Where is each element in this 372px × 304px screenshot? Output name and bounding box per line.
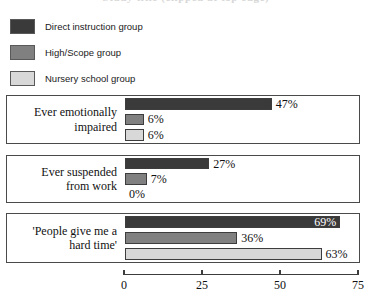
panel-category-label-line: hard time' bbox=[69, 238, 117, 252]
x-axis-tick bbox=[357, 270, 358, 275]
x-axis-tick bbox=[201, 270, 202, 275]
bar-value-label: 63% bbox=[326, 246, 348, 261]
bar-value-label: 6% bbox=[148, 128, 164, 143]
chart-panel: Ever emotionallyimpaired47%6%6% bbox=[6, 95, 360, 144]
panel-bars: 47%6%6% bbox=[125, 96, 359, 143]
panel-category-label-line: impaired bbox=[74, 120, 117, 134]
panel-category-label-line: Ever suspended bbox=[41, 165, 117, 179]
bar-value-label: 69% bbox=[314, 214, 336, 229]
panel-category-label-line: 'People give me a bbox=[33, 224, 117, 238]
panel-bars: 27%7%0% bbox=[125, 156, 359, 202]
x-axis-tick-label: 25 bbox=[196, 278, 208, 293]
panel-bars: 69%36%63% bbox=[125, 214, 359, 262]
bar-row: 69% bbox=[125, 214, 359, 230]
bar bbox=[125, 158, 209, 169]
bar-row: 27% bbox=[125, 156, 359, 171]
x-axis-line bbox=[124, 274, 358, 275]
x-axis-tick-label: 0 bbox=[121, 278, 127, 293]
bar bbox=[125, 248, 322, 260]
legend-swatch-direct-instruction bbox=[10, 19, 35, 34]
legend-label: High/Scope group bbox=[45, 47, 121, 58]
legend-item: Direct instruction group bbox=[10, 16, 310, 36]
bar bbox=[125, 98, 272, 110]
panel-category-label: Ever suspendedfrom work bbox=[7, 156, 125, 202]
legend-item: Nursery school group bbox=[10, 68, 310, 88]
bar-row: 0% bbox=[125, 187, 359, 202]
bar-value-label: 6% bbox=[148, 112, 164, 127]
chart-legend: Direct instruction group High/Scope grou… bbox=[10, 16, 310, 94]
bar-row: 6% bbox=[125, 112, 359, 128]
legend-item: High/Scope group bbox=[10, 42, 310, 62]
bar-value-label: 36% bbox=[241, 230, 263, 245]
bar bbox=[125, 232, 237, 244]
panel-category-label: Ever emotionallyimpaired bbox=[7, 96, 125, 143]
chart-title: Study title (clipped at top edge) bbox=[0, 0, 372, 3]
bar-value-label: 7% bbox=[151, 171, 167, 186]
legend-swatch-nursery-school bbox=[10, 71, 35, 86]
x-axis-tick bbox=[123, 270, 124, 275]
x-axis-tick bbox=[279, 270, 280, 275]
bar-row: 7% bbox=[125, 171, 359, 186]
bar-row: 63% bbox=[125, 246, 359, 262]
legend-label: Direct instruction group bbox=[45, 21, 143, 32]
legend-label: Nursery school group bbox=[45, 73, 135, 84]
chart-panel: 'People give me ahard time'69%36%63% bbox=[6, 213, 360, 263]
bar-row: 47% bbox=[125, 96, 359, 112]
bar bbox=[125, 129, 144, 141]
bar bbox=[125, 173, 147, 184]
bar-row: 36% bbox=[125, 230, 359, 246]
panel-category-label-line: from work bbox=[66, 179, 117, 193]
bar bbox=[125, 216, 340, 228]
x-axis-tick-label: 75 bbox=[352, 278, 364, 293]
legend-swatch-highscope bbox=[10, 45, 35, 60]
bar-value-label: 27% bbox=[213, 156, 235, 171]
panel-category-label: 'People give me ahard time' bbox=[7, 214, 125, 262]
bar-value-label: 47% bbox=[276, 96, 298, 111]
bar bbox=[125, 114, 144, 126]
chart-panel: Ever suspendedfrom work27%7%0% bbox=[6, 155, 360, 203]
x-axis: 0255075 bbox=[124, 274, 358, 304]
panel-category-label-line: Ever emotionally bbox=[34, 105, 117, 119]
chart-plot-area: Ever emotionallyimpaired47%6%6%Ever susp… bbox=[0, 88, 372, 304]
x-axis-tick-label: 50 bbox=[274, 278, 286, 293]
bar-value-label: 0% bbox=[129, 187, 145, 202]
bar-row: 6% bbox=[125, 127, 359, 143]
